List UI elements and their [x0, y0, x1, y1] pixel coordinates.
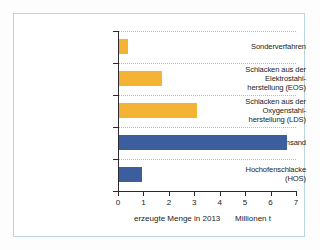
bar-huettensand	[119, 135, 287, 150]
x-axis-tick	[296, 191, 297, 196]
x-axis-tick	[220, 191, 221, 196]
category-label-line: Schlacken aus der	[211, 97, 306, 106]
category-label-line: Hochofenschlacke	[211, 165, 306, 174]
x-axis-tick-label: 0	[108, 198, 128, 207]
x-axis-tick	[118, 191, 119, 196]
gridline	[118, 159, 296, 160]
category-label-hos: Hochofenschlacke (HOS)	[211, 165, 306, 183]
x-axis-tick-label: 6	[261, 198, 281, 207]
category-label-line: Sonderverfahren	[211, 42, 306, 51]
category-label-line: Elektrostahl-	[211, 74, 306, 83]
gridline	[118, 63, 296, 64]
x-axis-tick	[143, 191, 144, 196]
x-axis-tick-label: 7	[286, 198, 306, 207]
bar-hos	[119, 167, 142, 182]
x-axis-tick-label: 3	[184, 198, 204, 207]
x-axis-tick	[245, 191, 246, 196]
bar-eos	[119, 71, 162, 86]
bar-lds	[119, 103, 197, 118]
x-axis-tick	[169, 191, 170, 196]
x-axis-tick-label: 5	[235, 198, 255, 207]
x-axis-unit-caption: Millionen t	[235, 214, 271, 223]
category-label-lds: Schlacken aus der Oxygenstahl- herstellu…	[211, 97, 306, 125]
x-axis-tick-label: 1	[133, 198, 153, 207]
category-label-line: herstellung (LDS)	[211, 115, 306, 124]
x-axis-tick-label: 4	[210, 198, 230, 207]
bar-chart: Sonderverfahren Schlacken aus der Elektr…	[14, 14, 306, 238]
y-axis-tick	[113, 95, 119, 96]
gridline	[118, 31, 296, 32]
gridline	[118, 127, 296, 128]
y-axis-tick	[113, 127, 119, 128]
x-axis-tick	[271, 191, 272, 196]
x-axis-caption: erzeugte Menge in 2013	[134, 214, 220, 223]
category-label-line: (HOS)	[211, 174, 306, 183]
category-label-eos: Schlacken aus der Elektrostahl- herstell…	[211, 65, 306, 93]
y-axis-tick	[113, 31, 119, 32]
category-label-sonderverfahren: Sonderverfahren	[211, 42, 306, 51]
category-label-line: Oxygenstahl-	[211, 106, 306, 115]
x-axis-tick-label: 2	[159, 198, 179, 207]
category-label-line: Schlacken aus der	[211, 65, 306, 74]
category-label-line: herstellung (EOS)	[211, 83, 306, 92]
chart-frame: Sonderverfahren Schlacken aus der Elektr…	[13, 13, 305, 237]
bar-sonderverfahren	[119, 39, 128, 54]
x-axis-tick	[194, 191, 195, 196]
y-axis-tick	[113, 159, 119, 160]
gridline	[118, 95, 296, 96]
y-axis-tick	[113, 63, 119, 64]
x-axis	[118, 191, 296, 192]
